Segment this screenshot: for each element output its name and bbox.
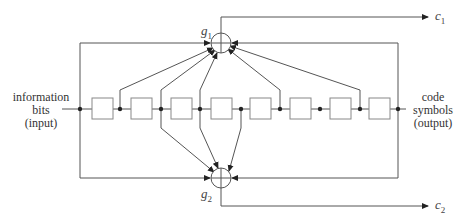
c1-subscript: 1 — [441, 16, 446, 26]
register-cell-6 — [290, 98, 311, 119]
c2-label: c2 — [435, 197, 445, 215]
adder-g2 — [211, 168, 231, 188]
c1-output-line — [221, 17, 428, 33]
input-label: information bits (input) — [6, 91, 76, 130]
g2-label: g2 — [201, 186, 212, 204]
register-cell-2 — [131, 98, 152, 119]
g1-subscript: 1 — [208, 31, 213, 41]
adder-g1 — [211, 33, 231, 53]
g1-label: g1 — [201, 23, 212, 41]
register-cell-7 — [330, 98, 351, 119]
g1-taps — [120, 46, 360, 109]
register-cell-3 — [171, 98, 192, 119]
register-cell-5 — [250, 98, 271, 119]
register-cell-1 — [92, 98, 113, 119]
output-label-line-3: (output) — [404, 117, 462, 130]
register-cell-4 — [211, 98, 232, 119]
g2-subscript: 2 — [208, 194, 213, 204]
c2-output-line — [221, 188, 428, 206]
output-label: code symbols (output) — [404, 91, 462, 130]
input-label-line-3: (input) — [6, 117, 76, 130]
c1-label: c1 — [435, 8, 445, 26]
register-cell-8 — [369, 98, 390, 119]
c2-subscript: 2 — [441, 205, 446, 215]
